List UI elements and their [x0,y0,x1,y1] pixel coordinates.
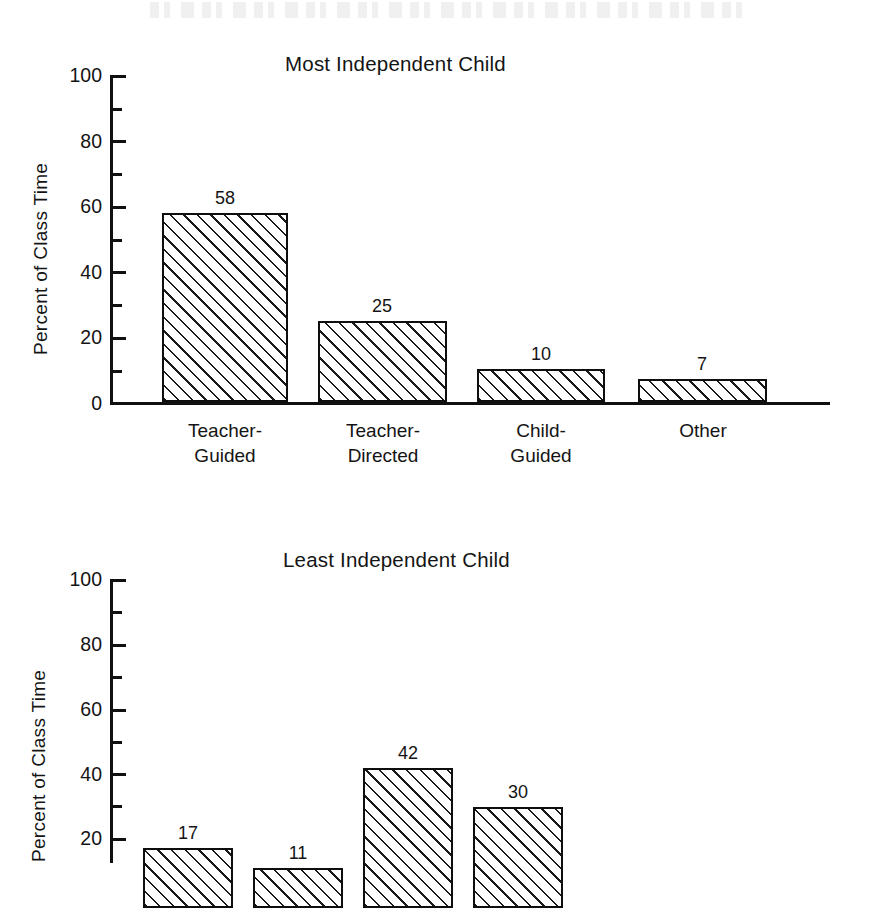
y-tick-minor-70-top [113,173,122,176]
y-tick-minor-90-bottom [113,611,122,614]
chart-least-independent-child: Least Independent Child Percent of Class… [0,505,869,863]
bar-teacher-directed-bottom [253,868,343,908]
y-tick-label-20-top: 20 [44,326,102,349]
y-tick-label-0-top: 0 [44,392,102,415]
y-tick-label-40-bottom: 40 [44,763,102,786]
x-category-label-other: Other [643,418,763,443]
y-tick-minor-30-top [113,304,122,307]
chart-title-top: Most Independent Child [285,52,506,76]
bar-other-top [638,379,767,402]
y-tick-label-100-bottom: 100 [44,568,102,591]
y-tick-minor-50-bottom [113,741,122,744]
y-tick-minor-90-top [113,108,122,111]
x-category-line1-teacher-directed: Teacher- [323,418,443,443]
x-category-line1-other: Other [643,418,763,443]
bar-value-other-bottom: 30 [478,782,558,803]
y-tick-label-20-bottom: 20 [44,827,102,850]
y-tick-major-60-bottom [113,709,126,712]
y-tick-label-80-bottom: 80 [44,633,102,656]
bar-value-teacher-directed-top: 25 [342,296,422,317]
y-tick-major-80-bottom [113,644,126,647]
x-category-line2-teacher-guided: Guided [165,443,285,468]
y-tick-major-20-bottom [113,838,126,841]
y-tick-minor-70-bottom [113,676,122,679]
chart-title-bottom: Least Independent Child [283,548,510,572]
y-tick-major-100-top [113,75,126,78]
bar-teacher-directed-top [318,321,447,402]
bar-value-teacher-guided-top: 58 [185,188,265,209]
y-tick-label-100-top: 100 [44,64,102,87]
bar-child-guided-top [477,369,605,402]
bar-teacher-guided-top [162,213,288,402]
y-tick-minor-10-top [113,370,122,373]
x-category-line2-child-guided: Guided [481,443,601,468]
x-category-label-child-guided: Child- Guided [481,418,601,468]
x-category-line1-child-guided: Child- [481,418,601,443]
bar-value-teacher-guided-bottom: 17 [148,823,228,844]
y-tick-label-40-top: 40 [44,261,102,284]
x-axis-spine-top [110,402,830,405]
y-tick-major-20-top [113,337,126,340]
y-axis-spine-bottom [110,579,113,863]
y-tick-major-60-top [113,206,126,209]
y-tick-minor-50-top [113,239,122,242]
bar-value-child-guided-top: 10 [501,344,581,365]
y-tick-label-60-bottom: 60 [44,698,102,721]
bar-value-other-top: 7 [662,354,742,375]
y-tick-label-60-top: 60 [44,195,102,218]
bar-other-bottom [473,807,563,908]
bar-child-guided-bottom [363,768,453,908]
x-category-line1-teacher-guided: Teacher- [165,418,285,443]
bar-teacher-guided-bottom [143,848,233,908]
y-tick-major-40-top [113,271,126,274]
y-tick-major-100-bottom [113,579,126,582]
chart-most-independent-child: Most Independent Child Percent of Class … [0,0,869,500]
y-tick-major-40-bottom [113,773,126,776]
x-category-line2-teacher-directed: Directed [323,443,443,468]
x-category-label-teacher-directed: Teacher- Directed [323,418,443,468]
y-tick-minor-30-bottom [113,805,122,808]
y-tick-label-80-top: 80 [44,130,102,153]
y-tick-major-80-top [113,140,126,143]
bar-value-teacher-directed-bottom: 11 [258,843,338,864]
bar-value-child-guided-bottom: 42 [368,743,448,764]
x-category-label-teacher-guided: Teacher- Guided [165,418,285,468]
